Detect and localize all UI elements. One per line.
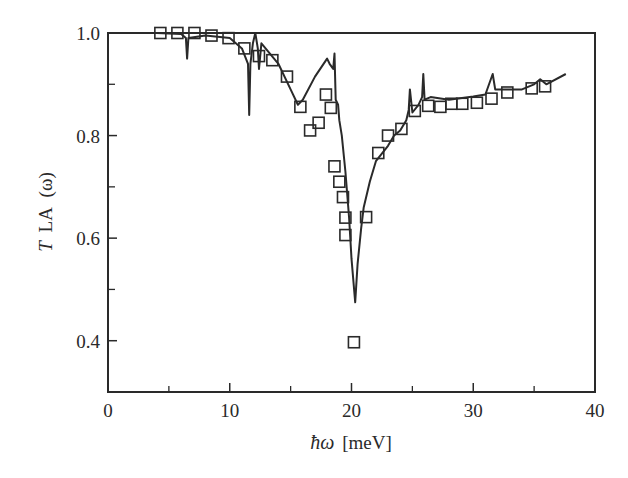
x-tick-label: 10 [220, 400, 239, 421]
y-tick-label: 0.6 [76, 228, 100, 249]
x-tick-label: 40 [586, 400, 605, 421]
data-point-square [334, 176, 345, 187]
x-axis-title-symbol: ħω [310, 431, 334, 453]
data-point-square [329, 161, 340, 172]
data-point-square [457, 98, 468, 109]
axis-labels: ħω [meV] T LA (ω) [35, 172, 392, 453]
chart: 0102030400.40.60.81.0 ħω [meV] T LA (ω) [0, 0, 628, 478]
data-point-square [325, 102, 336, 113]
calculated-line [108, 33, 566, 302]
data-point-square [471, 97, 482, 108]
data-point-square [423, 100, 434, 111]
data-point-square [320, 89, 331, 100]
y-tick-label: 1.0 [76, 23, 100, 44]
data-point-square [348, 337, 359, 348]
data-point-square [486, 93, 497, 104]
x-axis-title-unit: [meV] [342, 432, 392, 453]
y-axis-title: T LA (ω) [35, 172, 57, 252]
data-point-square [435, 101, 446, 112]
x-axis-title: ħω [meV] [310, 431, 391, 453]
calculated-curve [108, 33, 566, 302]
y-tick-label: 0.4 [76, 331, 100, 352]
y-axis-title-symbol: T [35, 240, 56, 252]
x-tick-label: 20 [342, 400, 361, 421]
y-axis-title-argument: (ω) [35, 172, 57, 197]
y-tick-label: 0.8 [76, 126, 100, 147]
x-tick-label: 0 [103, 400, 113, 421]
data-point-square [313, 117, 324, 128]
y-axis-title-subscript: LA [35, 207, 56, 233]
data-point-square [305, 125, 316, 136]
x-tick-label: 30 [464, 400, 483, 421]
